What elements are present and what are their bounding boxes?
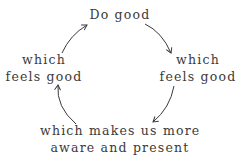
arrow-right-to-bottom [153, 86, 174, 122]
arrow-left-to-top [62, 25, 87, 53]
arrow-bottom-to-left [58, 85, 76, 124]
node-right: which feels good [158, 51, 238, 85]
arrow-top-to-right [145, 24, 171, 53]
node-left-line-2: feels good [4, 68, 84, 85]
node-bottom-line-2: aware and present [40, 139, 200, 156]
node-bottom: which makes us more aware and present [40, 122, 200, 156]
node-top: Do good [80, 6, 160, 23]
node-top-line-1: Do good [80, 6, 160, 23]
node-bottom-line-1: which makes us more [40, 122, 200, 139]
node-left: which feels good [4, 51, 84, 85]
node-right-line-1: which [158, 51, 238, 68]
cycle-diagram: Do good which feels good which makes us … [0, 0, 240, 163]
node-right-line-2: feels good [158, 68, 238, 85]
node-left-line-1: which [4, 51, 84, 68]
